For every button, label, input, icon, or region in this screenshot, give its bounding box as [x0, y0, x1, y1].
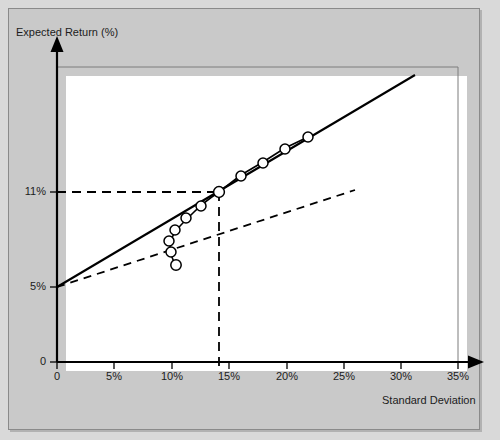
- data-point-tangency: [214, 187, 225, 198]
- x-tick-label-3: 15%: [212, 370, 246, 382]
- x-axis-title: Standard Deviation: [382, 394, 476, 406]
- x-tick-label-6: 30%: [384, 370, 418, 382]
- tangency-guides: [57, 192, 219, 366]
- x-tick-label-2: 10%: [155, 370, 189, 382]
- data-point: [164, 236, 174, 246]
- y-axis-arrow: [51, 36, 64, 52]
- chart-canvas: [0, 0, 500, 440]
- frontier-markers: [164, 132, 313, 270]
- x-tick-label-1: 5%: [100, 370, 128, 382]
- x-tick-label-5: 25%: [327, 370, 361, 382]
- y-tick-label-2: 11%: [14, 185, 46, 197]
- chart-screenshot: Expected Return (%) Standard Deviation 0…: [0, 0, 500, 440]
- data-point: [196, 201, 206, 211]
- data-point: [181, 213, 191, 223]
- data-point: [171, 260, 181, 270]
- x-axis-arrow: [468, 356, 484, 369]
- y-axis: [51, 36, 64, 362]
- y-tick-label-0: 0: [14, 355, 46, 367]
- y-axis-title: Expected Return (%): [16, 26, 118, 38]
- y-tick-label-1: 5%: [14, 280, 46, 292]
- data-point: [258, 158, 268, 168]
- capital-market-line: [57, 75, 415, 287]
- plot-border: [57, 67, 458, 362]
- data-point: [280, 144, 290, 154]
- data-point: [170, 225, 180, 235]
- data-point: [303, 132, 313, 142]
- data-point: [166, 247, 176, 257]
- x-tick-label-4: 20%: [270, 370, 304, 382]
- x-tick-label-0: 0: [47, 370, 67, 382]
- x-axis: [57, 356, 484, 369]
- data-point: [236, 171, 246, 181]
- x-tick-label-7: 35%: [441, 370, 475, 382]
- frontier-curve: [170, 137, 308, 265]
